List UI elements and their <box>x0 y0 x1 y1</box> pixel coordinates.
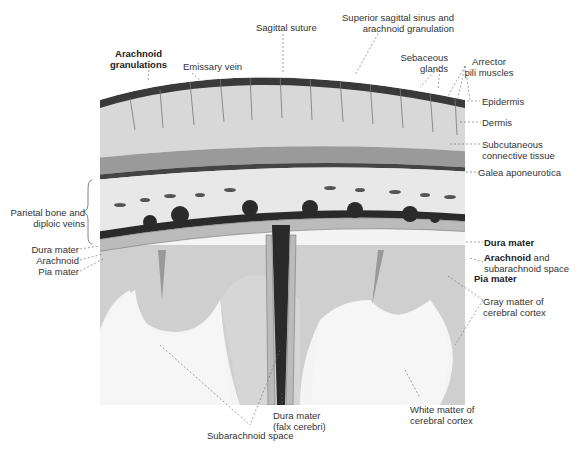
label-pia-left: Pia mater <box>10 266 79 277</box>
label-subarachnoid-space: Subarachnoid space <box>207 430 294 441</box>
label-parietal-bone: Parietal bone and diploic veins <box>10 207 85 229</box>
label-subcutaneous: Subcutaneous connective tissue <box>482 139 555 161</box>
label-sagittal-suture: Sagittal suture <box>256 22 317 33</box>
label-dura-right: Dura mater <box>484 237 534 248</box>
label-emissary-vein: Emissary vein <box>183 61 242 72</box>
label-dermis: Dermis <box>482 117 512 128</box>
label-falx-cerebri: Dura mater (falx cerebri) <box>273 410 326 432</box>
label-pia-right: Pia mater <box>474 273 517 284</box>
label-sebaceous-glands: Sebaceous glands <box>400 52 448 74</box>
label-gray-matter: Gray matter of cerebral cortex <box>483 296 546 318</box>
brace-icon <box>84 180 92 244</box>
label-epidermis: Epidermis <box>482 96 524 107</box>
label-arachnoid-left: Arachnoid <box>10 255 79 266</box>
label-superior-sagittal-sinus: Superior sagittal sinus and arachnoid gr… <box>340 12 454 34</box>
label-white-matter: White matter of cerebral cortex <box>410 404 474 426</box>
label-arrector-pili: Arrector pili muscles <box>462 56 516 78</box>
label-arachnoid-granulations: Arachnoid granulations <box>110 48 167 70</box>
label-galea: Galea aponeurotica <box>478 167 561 178</box>
label-dura-left: Dura mater <box>10 244 79 255</box>
label-arachnoid-right: Arachnoid and subarachnoid space <box>484 252 569 274</box>
